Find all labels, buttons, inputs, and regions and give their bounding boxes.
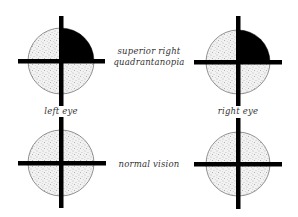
condition-label-bottom: normal vision — [119, 159, 180, 169]
right-eye-field-quadrantanopia — [194, 16, 282, 106]
right-eye-label: right eye — [216, 106, 260, 116]
horizontal-meridian-bar — [194, 60, 282, 65]
condition-label-top-line2: quadrantanopia — [113, 57, 184, 67]
horizontal-meridian-bar — [194, 162, 282, 167]
defect-quadrant-superior-right — [61, 28, 94, 61]
left-eye-field-normal — [18, 117, 106, 208]
horizontal-meridian-bar — [18, 59, 105, 64]
condition-label-top-line1: superior right — [118, 46, 181, 56]
horizontal-meridian-bar — [18, 161, 106, 166]
left-eye-label: left eye — [42, 106, 79, 116]
right-eye-field-normal — [194, 118, 282, 209]
defect-quadrant-superior-right — [238, 30, 270, 62]
visual-field-diagram: superior right quadrantanopia left eye r… — [0, 0, 298, 217]
left-eye-field-quadrantanopia — [18, 16, 105, 106]
